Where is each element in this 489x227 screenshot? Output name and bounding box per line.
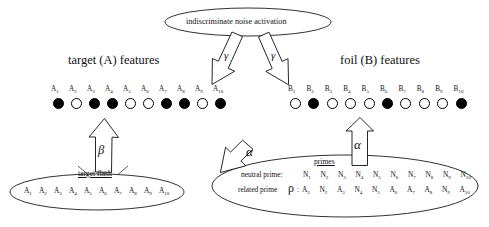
foil-feature-dot-B3[interactable] xyxy=(327,98,338,109)
foil-feature-label-B7: B7 xyxy=(398,85,405,93)
target-flash-items: A1A2A3A4A5A6A7A8A9A10 xyxy=(24,186,174,195)
related-prime-item-A10: A10 xyxy=(460,185,478,194)
target-flash-caption: target flash xyxy=(78,169,112,178)
target-flash-item-A4: A4 xyxy=(69,186,84,195)
target-feature-dot-A3[interactable] xyxy=(89,98,100,109)
foil-feature-label-B8: B8 xyxy=(417,85,424,93)
neutral-prime-item-N6: N6 xyxy=(391,170,409,179)
foil-feature-label-B5: B5 xyxy=(362,85,369,93)
diagram-canvas: indiscriminate noise activation target (… xyxy=(0,0,489,227)
foil-feature-label-B1: B1 xyxy=(288,85,295,93)
foil-feature-dot-B5[interactable] xyxy=(364,98,375,109)
target-feature-dot-A5[interactable] xyxy=(125,98,136,109)
neutral-prime-item-N9: N9 xyxy=(443,170,461,179)
target-flash-item-A2: A2 xyxy=(39,186,54,195)
foil-feature-dot-B6[interactable] xyxy=(382,98,393,109)
target-flash-item-A1: A1 xyxy=(24,186,39,195)
target-flash-item-A6: A6 xyxy=(99,186,114,195)
target-feature-dot-A2[interactable] xyxy=(71,98,82,109)
target-flash-connector-right xyxy=(118,166,128,175)
related-prime-item-N2: N2 xyxy=(320,185,338,194)
target-feature-dot-A10[interactable] xyxy=(215,98,226,109)
target-flash-item-A3: A3 xyxy=(54,186,69,195)
alpha-diagonal-label: α xyxy=(246,144,253,160)
target-feature-label-A5: A5 xyxy=(123,85,131,93)
neutral-prime-item-N10: N10 xyxy=(461,170,479,179)
target-feature-label-A2: A2 xyxy=(69,85,77,93)
gamma-left-label: γ xyxy=(224,49,228,61)
neutral-prime-item-N7: N7 xyxy=(408,170,426,179)
target-flash-item-A7: A7 xyxy=(114,186,129,195)
neutral-prime-item-N5: N5 xyxy=(373,170,391,179)
target-features-heading: target (A) features xyxy=(68,54,159,67)
related-prime-label: related prime xyxy=(238,185,277,194)
neutral-prime-label: neutral prime: xyxy=(241,170,283,179)
neutral-prime-item-N2: N2 xyxy=(321,170,339,179)
target-feature-label-A9: A9 xyxy=(195,85,203,93)
related-prime-item-A2: A2 xyxy=(302,185,320,194)
foil-feature-dot-B10[interactable] xyxy=(456,98,467,109)
target-flash-item-A9: A9 xyxy=(144,186,159,195)
noise-activation-label: indiscriminate noise activation xyxy=(186,17,287,26)
foil-feature-label-B2: B2 xyxy=(306,85,313,93)
alpha-vertical-label: α xyxy=(354,137,361,153)
target-feature-dot-A1[interactable] xyxy=(53,98,64,109)
target-feature-label-A6: A6 xyxy=(141,85,149,93)
foil-feature-dot-B1[interactable] xyxy=(290,98,301,109)
related-prime-item-A7: A7 xyxy=(407,185,425,194)
target-flash-item-A5: A5 xyxy=(84,186,99,195)
foil-feature-label-B4: B4 xyxy=(343,85,350,93)
related-prime-separator: : xyxy=(297,185,299,194)
foil-features-heading: foil (B) features xyxy=(340,54,420,67)
target-flash-item-A10: A10 xyxy=(159,186,174,195)
foil-feature-label-B9: B9 xyxy=(435,85,442,93)
foil-feature-label-B6: B6 xyxy=(380,85,387,93)
primes-caption: primes xyxy=(314,157,335,166)
related-prime-rho-symbol: ρ xyxy=(288,181,294,196)
target-feature-dot-A4[interactable] xyxy=(107,98,118,109)
foil-feature-label-B10: B10 xyxy=(454,85,464,93)
target-feature-label-A8: A8 xyxy=(177,85,185,93)
related-prime-item-N5: N5 xyxy=(372,185,390,194)
foil-feature-dot-B8[interactable] xyxy=(419,98,430,109)
neutral-prime-item-N8: N8 xyxy=(426,170,444,179)
target-feature-dot-A6[interactable] xyxy=(143,98,154,109)
target-feature-label-A1: A1 xyxy=(51,85,59,93)
neutral-prime-item-N1: N1 xyxy=(303,170,321,179)
related-prime-item-N9: N9 xyxy=(442,185,460,194)
foil-feature-label-B3: B3 xyxy=(325,85,332,93)
related-prime-item-A6: A6 xyxy=(390,185,408,194)
target-feature-label-A7: A7 xyxy=(159,85,167,93)
target-feature-dot-A9[interactable] xyxy=(197,98,208,109)
neutral-prime-item-N3: N3 xyxy=(338,170,356,179)
related-prime-item-A3: A3 xyxy=(337,185,355,194)
neutral-prime-items: N1N2N3N4N5N6N7N8N9N10 xyxy=(303,170,478,179)
target-feature-label-A4: A4 xyxy=(105,85,113,93)
target-flash-item-A8: A8 xyxy=(129,186,144,195)
gamma-right-label: γ xyxy=(271,49,275,61)
beta-label: β xyxy=(98,143,104,158)
related-prime-items: A2N2A3N4N5A6A7A8N9A10 xyxy=(302,185,477,194)
target-feature-dot-A7[interactable] xyxy=(161,98,172,109)
target-feature-dot-A8[interactable] xyxy=(179,98,190,109)
related-prime-item-A8: A8 xyxy=(425,185,443,194)
neutral-prime-item-N4: N4 xyxy=(356,170,374,179)
target-feature-label-A10: A10 xyxy=(213,85,223,93)
related-prime-item-N4: N4 xyxy=(355,185,373,194)
target-feature-label-A3: A3 xyxy=(87,85,95,93)
